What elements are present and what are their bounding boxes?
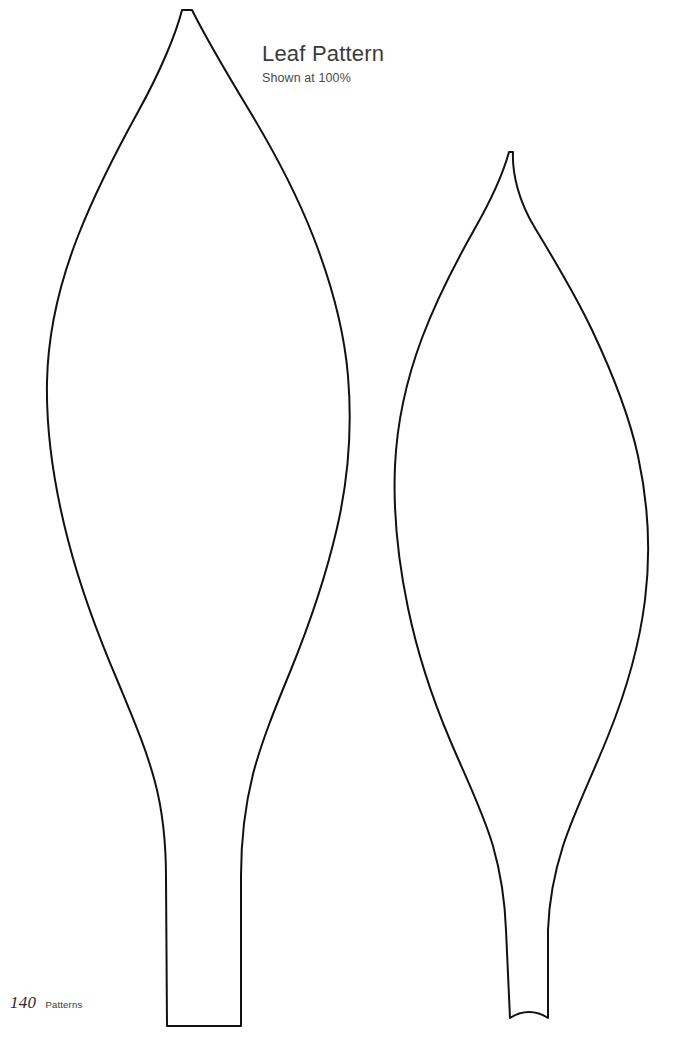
pattern-page: Leaf Pattern Shown at 100% 140 Patterns xyxy=(0,0,691,1039)
page-subtitle: Shown at 100% xyxy=(262,71,522,85)
folio-number: 140 xyxy=(10,993,36,1013)
caption-block: Leaf Pattern Shown at 100% xyxy=(262,42,522,85)
page-title: Leaf Pattern xyxy=(262,42,522,65)
leaf-pattern-artwork xyxy=(0,0,691,1039)
page-footer: 140 Patterns xyxy=(10,993,82,1013)
folio-section-label: Patterns xyxy=(45,999,82,1010)
